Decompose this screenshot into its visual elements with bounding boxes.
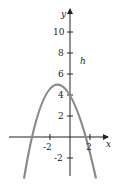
- y-tick-label: 2: [58, 111, 64, 121]
- x-tick-label: -2: [43, 142, 52, 152]
- y-tick-label: 4: [58, 90, 64, 100]
- y-tick-label: -2: [54, 153, 63, 163]
- x-axis-label: x: [106, 139, 111, 149]
- y-tick-label: 6: [58, 69, 64, 79]
- x-tick-label: 2: [86, 142, 92, 152]
- parabola-graph: -2 2 10 8 6 4 2 -2 x y h: [0, 0, 119, 190]
- y-tick-label: 10: [53, 27, 65, 37]
- y-axis-label: y: [60, 9, 67, 19]
- y-tick-label: 8: [58, 48, 64, 58]
- curve-label: h: [80, 56, 86, 66]
